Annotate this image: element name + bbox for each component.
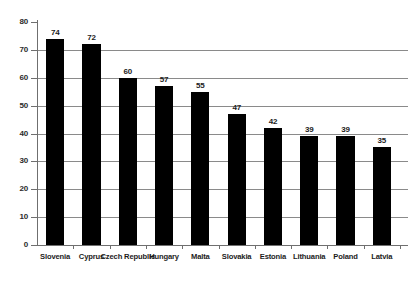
y-axis-tick-label: 20 <box>0 184 28 193</box>
bar <box>373 147 391 245</box>
y-axis-tick <box>31 161 37 162</box>
bar <box>336 136 354 245</box>
y-axis-tick <box>31 22 37 23</box>
bar <box>46 39 64 245</box>
bar-value-label: 39 <box>289 125 329 134</box>
y-axis-tick-label: 50 <box>0 101 28 110</box>
bar <box>82 44 100 245</box>
x-axis-tick <box>146 245 147 249</box>
bar <box>155 86 173 245</box>
y-axis-line <box>37 20 38 246</box>
y-axis-tick <box>31 134 37 135</box>
bar <box>228 114 246 245</box>
bar-value-label: 72 <box>71 33 111 42</box>
x-axis-tick <box>110 245 111 249</box>
y-axis-tick-label: 70 <box>0 45 28 54</box>
x-axis-tick <box>364 245 365 249</box>
bar <box>264 128 282 245</box>
x-axis-tick <box>255 245 256 249</box>
x-axis-tick <box>327 245 328 249</box>
bar <box>300 136 318 245</box>
y-axis-tick <box>31 245 37 246</box>
bar-value-label: 74 <box>35 28 75 37</box>
bar-value-label: 55 <box>180 81 220 90</box>
y-axis-tick <box>31 50 37 51</box>
x-axis-tick <box>182 245 183 249</box>
x-axis-tick <box>219 245 220 249</box>
y-axis-tick <box>31 189 37 190</box>
y-axis-tick-label: 10 <box>0 212 28 221</box>
x-axis-label: Latvia <box>354 252 410 262</box>
x-axis-tick <box>291 245 292 249</box>
x-axis-tick <box>400 245 401 249</box>
bar-chart: 01020304050607080 SloveniaCyprusCzech Re… <box>0 0 420 289</box>
y-axis-tick-label: 40 <box>0 129 28 138</box>
bar <box>191 92 209 245</box>
bar-value-label: 42 <box>253 117 293 126</box>
y-axis-tick <box>31 217 37 218</box>
y-axis-tick-label: 30 <box>0 156 28 165</box>
bar-value-label: 57 <box>144 75 184 84</box>
y-axis-tick <box>31 106 37 107</box>
x-axis-tick <box>73 245 74 249</box>
y-axis-tick <box>31 78 37 79</box>
y-axis-tick-label: 80 <box>0 17 28 26</box>
x-axis-line <box>37 245 408 246</box>
bar-value-label: 35 <box>362 136 402 145</box>
bar-value-label: 60 <box>108 67 148 76</box>
bar-value-label: 47 <box>217 103 257 112</box>
bar <box>119 78 137 245</box>
y-axis-tick-label: 0 <box>0 240 28 249</box>
y-axis-tick-label: 60 <box>0 73 28 82</box>
bar-value-label: 39 <box>326 125 366 134</box>
